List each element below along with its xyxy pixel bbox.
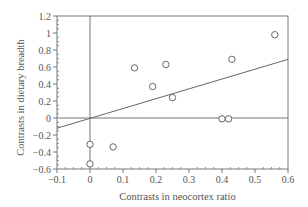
x-axis-title: Contrasts in neocortex ratio	[119, 191, 235, 202]
x-tick-label: 0	[88, 174, 93, 185]
y-tick-label: 0.6	[39, 62, 52, 73]
data-point-marker	[272, 32, 278, 38]
y-tick-label: −0.2	[33, 130, 51, 141]
y-tick-label: 0.8	[39, 45, 52, 56]
y-axis-title: Contrasts in dietary breadth	[15, 39, 26, 156]
data-point-marker	[225, 116, 231, 122]
data-point-marker	[131, 65, 137, 71]
data-point-marker	[169, 94, 175, 100]
y-tick-label: −0.4	[33, 147, 51, 158]
data-point-marker	[87, 141, 93, 147]
scatter-chart: −0.6−0.4−0.200.20.40.60.811.2 −0.100.10.…	[0, 0, 308, 207]
x-tick-label: −0.1	[48, 174, 66, 185]
y-tick-label: 1.2	[39, 11, 52, 22]
x-tick-label: 0.1	[117, 174, 130, 185]
y-tick-label: 1	[46, 28, 51, 39]
data-point-marker	[87, 161, 93, 167]
x-tick-label: 0.6	[282, 174, 295, 185]
data-point-marker	[229, 56, 235, 62]
y-tick-label: 0.4	[39, 79, 52, 90]
data-point-marker	[163, 61, 169, 67]
data-point-marker	[110, 144, 116, 150]
x-tick-label: 0.4	[216, 174, 229, 185]
x-tick-label: 0.2	[150, 174, 163, 185]
x-tick-label: 0.3	[183, 174, 196, 185]
data-point-marker	[150, 83, 156, 89]
y-tick-label: −0.6	[33, 164, 51, 175]
data-points	[87, 32, 278, 168]
data-point-marker	[219, 116, 225, 122]
y-tick-label: 0.2	[39, 96, 52, 107]
y-axis-ticks: −0.6−0.4−0.200.20.40.60.811.2	[33, 11, 59, 175]
y-tick-label: 0	[46, 113, 51, 124]
x-tick-label: 0.5	[249, 174, 262, 185]
x-axis-ticks: −0.100.10.20.30.40.50.6	[48, 167, 294, 185]
